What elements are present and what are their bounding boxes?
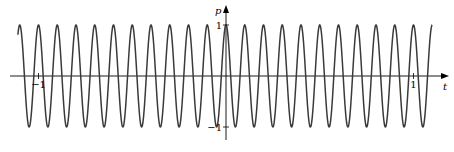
y-tick-label: 1 — [216, 20, 222, 31]
y-axis-arrow-icon — [223, 5, 229, 13]
y-axis-label: p — [215, 5, 222, 16]
x-axis-arrow-icon — [441, 73, 449, 79]
x-tick-label: 1 — [410, 79, 416, 90]
x-axis-label: t — [443, 81, 448, 92]
y-tick-label: −1 — [207, 122, 222, 133]
x-tick-label: −1 — [31, 79, 46, 90]
chart: −111−1 t p — [0, 0, 454, 152]
